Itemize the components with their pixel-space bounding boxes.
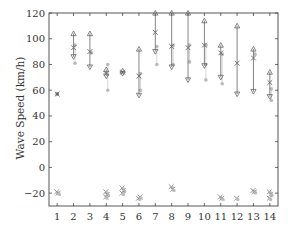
- x-tick-label: 5: [119, 211, 125, 222]
- dot-marker: [139, 196, 143, 200]
- x-tick-label: 6: [136, 211, 142, 222]
- dot-marker: [55, 92, 59, 96]
- y-tick-label: −20: [24, 188, 45, 199]
- plot-frame: [49, 13, 278, 206]
- dot-marker: [105, 196, 109, 200]
- plot-axes: [49, 13, 278, 206]
- dot-marker: [172, 188, 176, 192]
- y-tick-label: 100: [26, 33, 45, 44]
- x-tick-label: 12: [231, 211, 244, 222]
- axis-ticks: −200204060801001201234567891011121314: [24, 8, 278, 223]
- dot-marker: [57, 192, 61, 196]
- y-tick-label: 80: [32, 59, 45, 70]
- x-tick-label: 7: [152, 211, 158, 222]
- y-tick-label: 60: [32, 85, 45, 96]
- dot-marker: [221, 197, 225, 201]
- x-marker: [120, 70, 125, 75]
- data-markers: [54, 10, 273, 201]
- x-tick-label: 13: [247, 211, 260, 222]
- x-tick-label: 2: [70, 211, 76, 222]
- dot-marker: [254, 191, 258, 195]
- x-tick-label: 1: [54, 211, 60, 222]
- x-tick-label: 8: [168, 211, 174, 222]
- x-tick-label: 3: [87, 211, 93, 222]
- y-tick-label: 0: [39, 162, 45, 173]
- y-axis-label: Wave Speed (km/h): [14, 57, 26, 160]
- x-tick-label: 4: [103, 211, 109, 222]
- dot-marker: [121, 192, 125, 196]
- wave-speed-chart: −200204060801001201234567891011121314 Wa…: [0, 0, 291, 232]
- y-tick-label: 20: [32, 136, 45, 147]
- y-tick-label: 120: [26, 8, 45, 19]
- y-tick-label: 40: [32, 110, 45, 121]
- x-tick-label: 14: [263, 211, 276, 222]
- x-tick-label: 10: [198, 211, 211, 222]
- x-tick-label: 9: [185, 211, 191, 222]
- dot-marker: [236, 197, 240, 201]
- x-tick-label: 11: [214, 211, 227, 222]
- dot-marker: [269, 197, 273, 201]
